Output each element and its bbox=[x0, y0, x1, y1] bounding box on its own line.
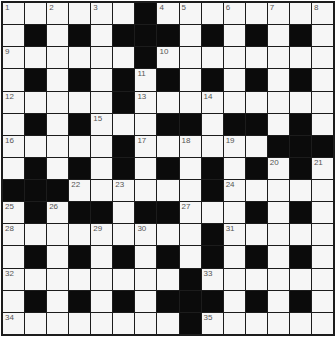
answer-cell[interactable] bbox=[268, 25, 289, 46]
answer-cell[interactable] bbox=[113, 47, 134, 68]
answer-cell[interactable] bbox=[91, 25, 112, 46]
answer-cell[interactable] bbox=[47, 269, 68, 290]
answer-cell[interactable] bbox=[113, 202, 134, 223]
answer-cell[interactable] bbox=[180, 69, 201, 90]
answer-cell[interactable] bbox=[69, 224, 90, 245]
answer-cell[interactable] bbox=[202, 3, 223, 24]
answer-cell[interactable] bbox=[47, 158, 68, 179]
answer-cell[interactable] bbox=[25, 47, 46, 68]
answer-cell[interactable] bbox=[47, 313, 68, 334]
answer-cell[interactable] bbox=[312, 47, 333, 68]
answer-cell[interactable]: 34 bbox=[3, 313, 24, 334]
answer-cell[interactable] bbox=[268, 246, 289, 267]
answer-cell[interactable] bbox=[91, 136, 112, 157]
answer-cell[interactable]: 15 bbox=[91, 114, 112, 135]
answer-cell[interactable] bbox=[290, 3, 311, 24]
answer-cell[interactable] bbox=[91, 269, 112, 290]
answer-cell[interactable] bbox=[47, 69, 68, 90]
answer-cell[interactable] bbox=[246, 224, 267, 245]
answer-cell[interactable] bbox=[47, 47, 68, 68]
answer-cell[interactable] bbox=[312, 25, 333, 46]
answer-cell[interactable]: 13 bbox=[135, 92, 156, 113]
answer-cell[interactable] bbox=[202, 136, 223, 157]
answer-cell[interactable]: 22 bbox=[69, 180, 90, 201]
answer-cell[interactable] bbox=[246, 92, 267, 113]
answer-cell[interactable] bbox=[290, 47, 311, 68]
answer-cell[interactable] bbox=[312, 269, 333, 290]
answer-cell[interactable] bbox=[113, 3, 134, 24]
answer-cell[interactable]: 12 bbox=[3, 92, 24, 113]
answer-cell[interactable] bbox=[25, 92, 46, 113]
answer-cell[interactable] bbox=[91, 47, 112, 68]
answer-cell[interactable] bbox=[157, 313, 178, 334]
answer-cell[interactable] bbox=[47, 291, 68, 312]
answer-cell[interactable] bbox=[268, 291, 289, 312]
answer-cell[interactable] bbox=[3, 69, 24, 90]
answer-cell[interactable] bbox=[224, 25, 245, 46]
answer-cell[interactable] bbox=[180, 47, 201, 68]
answer-cell[interactable] bbox=[135, 180, 156, 201]
answer-cell[interactable]: 24 bbox=[224, 180, 245, 201]
answer-cell[interactable] bbox=[157, 136, 178, 157]
answer-cell[interactable] bbox=[224, 158, 245, 179]
answer-cell[interactable] bbox=[47, 136, 68, 157]
answer-cell[interactable] bbox=[290, 92, 311, 113]
answer-cell[interactable]: 8 bbox=[312, 3, 333, 24]
answer-cell[interactable] bbox=[91, 180, 112, 201]
answer-cell[interactable]: 9 bbox=[3, 47, 24, 68]
answer-cell[interactable] bbox=[69, 313, 90, 334]
answer-cell[interactable]: 18 bbox=[180, 136, 201, 157]
answer-cell[interactable] bbox=[290, 224, 311, 245]
answer-cell[interactable]: 4 bbox=[157, 3, 178, 24]
answer-cell[interactable] bbox=[180, 246, 201, 267]
answer-cell[interactable] bbox=[268, 180, 289, 201]
answer-cell[interactable] bbox=[180, 92, 201, 113]
answer-cell[interactable] bbox=[224, 92, 245, 113]
answer-cell[interactable] bbox=[47, 224, 68, 245]
answer-cell[interactable] bbox=[224, 202, 245, 223]
answer-cell[interactable] bbox=[290, 180, 311, 201]
answer-cell[interactable] bbox=[268, 114, 289, 135]
answer-cell[interactable] bbox=[246, 3, 267, 24]
answer-cell[interactable] bbox=[91, 313, 112, 334]
answer-cell[interactable] bbox=[224, 313, 245, 334]
answer-cell[interactable] bbox=[180, 158, 201, 179]
answer-cell[interactable]: 3 bbox=[91, 3, 112, 24]
answer-cell[interactable] bbox=[113, 224, 134, 245]
answer-cell[interactable]: 5 bbox=[180, 3, 201, 24]
answer-cell[interactable] bbox=[180, 180, 201, 201]
answer-cell[interactable] bbox=[3, 25, 24, 46]
answer-cell[interactable] bbox=[268, 47, 289, 68]
answer-cell[interactable]: 16 bbox=[3, 136, 24, 157]
answer-cell[interactable] bbox=[202, 114, 223, 135]
answer-cell[interactable] bbox=[290, 313, 311, 334]
answer-cell[interactable] bbox=[312, 313, 333, 334]
answer-cell[interactable] bbox=[312, 291, 333, 312]
answer-cell[interactable] bbox=[135, 313, 156, 334]
answer-cell[interactable] bbox=[246, 47, 267, 68]
answer-cell[interactable] bbox=[25, 3, 46, 24]
answer-cell[interactable] bbox=[135, 114, 156, 135]
answer-cell[interactable] bbox=[224, 69, 245, 90]
answer-cell[interactable]: 30 bbox=[135, 224, 156, 245]
answer-cell[interactable] bbox=[135, 269, 156, 290]
answer-cell[interactable] bbox=[113, 114, 134, 135]
answer-cell[interactable]: 35 bbox=[202, 313, 223, 334]
answer-cell[interactable] bbox=[3, 291, 24, 312]
answer-cell[interactable]: 10 bbox=[157, 47, 178, 68]
answer-cell[interactable] bbox=[157, 269, 178, 290]
answer-cell[interactable] bbox=[312, 246, 333, 267]
answer-cell[interactable] bbox=[224, 291, 245, 312]
answer-cell[interactable] bbox=[69, 92, 90, 113]
answer-cell[interactable]: 25 bbox=[3, 202, 24, 223]
answer-cell[interactable] bbox=[180, 25, 201, 46]
answer-cell[interactable]: 1 bbox=[3, 3, 24, 24]
answer-cell[interactable] bbox=[91, 158, 112, 179]
answer-cell[interactable] bbox=[312, 224, 333, 245]
answer-cell[interactable] bbox=[268, 269, 289, 290]
answer-cell[interactable] bbox=[312, 202, 333, 223]
answer-cell[interactable] bbox=[69, 47, 90, 68]
answer-cell[interactable]: 29 bbox=[91, 224, 112, 245]
answer-cell[interactable] bbox=[180, 224, 201, 245]
answer-cell[interactable]: 33 bbox=[202, 269, 223, 290]
